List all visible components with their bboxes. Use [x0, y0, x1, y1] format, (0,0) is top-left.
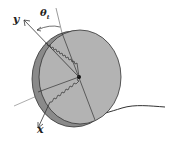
- y-axis-label: y: [13, 14, 19, 25]
- angle-label: θt: [40, 8, 49, 20]
- vertical-reference-line: [56, 8, 62, 33]
- angle-symbol: θ: [40, 7, 47, 18]
- rolling-disk-diagram: y x θt: [0, 0, 175, 146]
- diagram-canvas: [0, 0, 175, 146]
- angle-arc: [37, 26, 60, 30]
- x-axis-label: x: [37, 124, 44, 135]
- angle-subscript: t: [47, 13, 50, 20]
